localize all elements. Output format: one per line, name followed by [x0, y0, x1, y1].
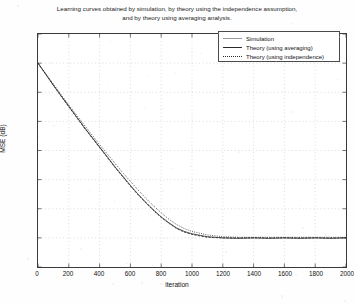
- scan-speckle: [7, 74, 8, 75]
- chart-title: Learning curves obtained by simulation, …: [0, 4, 354, 22]
- figure: Learning curves obtained by simulation, …: [0, 0, 354, 305]
- scan-speckle: [344, 300, 346, 302]
- scan-speckle: [61, 294, 62, 295]
- legend-item-simulation: Simulation: [222, 34, 336, 43]
- x-tick-label: 400: [94, 270, 105, 277]
- x-tick-label: 1200: [216, 270, 230, 277]
- x-tick-label: 200: [63, 270, 74, 277]
- x-tick-label: 0: [35, 270, 39, 277]
- x-tick-label: 2000: [340, 270, 354, 277]
- x-tick-label: 1400: [247, 270, 261, 277]
- legend-line-sample-theory-averaging: [222, 44, 243, 51]
- x-tick-label: 1800: [309, 270, 323, 277]
- legend-item-theory-averaging: Theory (using averaging): [222, 43, 336, 52]
- plot-area: [37, 33, 347, 268]
- legend-item-theory-independence: Theory (using independence): [222, 52, 336, 61]
- scan-speckle: [339, 29, 341, 30]
- legend-label-simulation: Simulation: [246, 36, 274, 42]
- chart-title-line-2: and by theory using averaging analysis.: [0, 13, 354, 22]
- scan-speckle: [291, 23, 293, 24]
- scan-speckle: [339, 26, 340, 28]
- scan-speckle: [281, 295, 283, 298]
- legend-label-theory-independence: Theory (using independence): [246, 54, 324, 60]
- x-tick-label: 1600: [278, 270, 292, 277]
- chart-title-line-1: Learning curves obtained by simulation, …: [0, 4, 354, 13]
- legend-label-theory-averaging: Theory (using averaging): [246, 45, 313, 51]
- y-axis-label: MSE (dB): [0, 124, 6, 153]
- x-axis-label: iteration: [0, 281, 354, 288]
- x-tick-label: 800: [156, 270, 167, 277]
- x-tick-label: 1000: [185, 270, 199, 277]
- legend-line-sample-theory-independence: [222, 53, 243, 60]
- scan-speckle: [27, 258, 29, 260]
- x-tick-label: 600: [125, 270, 136, 277]
- legend[interactable]: Simulation Theory (using averaging) Theo…: [218, 31, 340, 62]
- legend-line-sample-simulation: [222, 35, 243, 42]
- data-curves: [38, 34, 346, 267]
- scan-speckle: [324, 268, 325, 269]
- scan-speckle: [295, 274, 297, 276]
